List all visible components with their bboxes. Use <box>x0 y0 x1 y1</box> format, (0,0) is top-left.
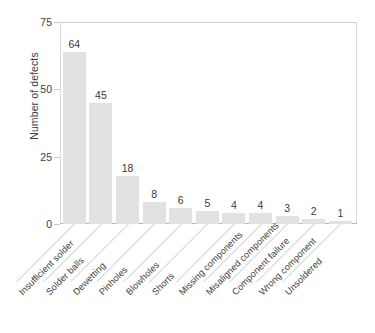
y-tick-label-75: 75 <box>26 16 52 28</box>
bar[interactable] <box>89 103 112 224</box>
bar[interactable] <box>63 52 86 224</box>
bar-value-label: 45 <box>83 89 118 101</box>
bar[interactable] <box>169 208 192 224</box>
bar[interactable] <box>222 213 245 224</box>
x-axis-category-labels: Insufficient solderSolder ballsDewetting… <box>0 224 375 333</box>
y-tick-label-25: 25 <box>26 151 52 163</box>
bar-value-label: 64 <box>57 38 92 50</box>
bar-value-label: 18 <box>110 162 145 174</box>
bar[interactable] <box>143 202 166 224</box>
bar[interactable] <box>196 211 219 224</box>
bar[interactable] <box>116 176 139 224</box>
defect-pareto-bar-chart: Number of defects 7550250 64451886544321… <box>0 0 375 333</box>
y-tick-label-50: 50 <box>26 83 52 95</box>
bar-value-label: 1 <box>323 207 358 219</box>
bars-layer: 64451886544321 <box>60 22 357 224</box>
